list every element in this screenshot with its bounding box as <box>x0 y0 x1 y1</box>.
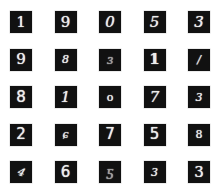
digit-image: 3 <box>188 11 210 33</box>
digit-image: 1 <box>10 11 32 33</box>
digit-image: / <box>188 49 210 71</box>
digit-label: ɜ <box>107 54 113 66</box>
digit-label: 7 <box>150 90 160 105</box>
digit-image: 8 <box>188 124 210 146</box>
digit-image: 5 <box>144 11 166 33</box>
digit-image: ɜ <box>99 49 121 71</box>
digit-image: 3 <box>188 161 210 183</box>
digit-image: o <box>99 86 121 108</box>
digit-image: 6 <box>55 161 77 183</box>
digit-image: 8 <box>55 49 77 71</box>
digit-label: 9 <box>16 52 26 67</box>
digit-label: 5 <box>150 127 160 142</box>
digit-image: 2 <box>10 124 32 146</box>
digit-label: 4 <box>16 166 26 179</box>
digit-label: 8 <box>196 129 203 140</box>
digit-image: 7 <box>144 86 166 108</box>
digit-image: 9 <box>55 11 77 33</box>
digit-image: 1 <box>144 49 166 71</box>
digit-image: 4 <box>10 161 32 183</box>
digit-label: 6 <box>61 165 71 180</box>
digit-image: 1 <box>55 86 77 108</box>
digit-image: 3 <box>144 161 166 183</box>
digit-label: 3 <box>151 167 158 178</box>
digit-label: 0 <box>105 15 115 30</box>
digit-label: 2 <box>16 127 26 142</box>
digit-image: 3 <box>188 86 210 108</box>
digit-label: 3 <box>194 15 204 30</box>
digit-label: 1 <box>16 15 26 30</box>
digit-image: 7 <box>99 124 121 146</box>
digit-label: 8 <box>16 90 26 105</box>
digit-image: 8 <box>10 86 32 108</box>
digit-image: 0 <box>99 11 121 33</box>
digit-label: 1 <box>61 90 71 105</box>
digit-image: 5 <box>144 124 166 146</box>
digit-label: 3 <box>196 92 203 103</box>
digit-image: 9 <box>10 49 32 71</box>
digit-image: ɕ <box>55 124 77 146</box>
digit-image-grid: 1 9 0 5 3 9 8 ɜ 1 / 8 1 o 7 3 2 ɕ 7 5 8 … <box>10 11 210 183</box>
digit-label: o <box>107 92 114 103</box>
digit-label: 5 <box>150 15 160 30</box>
digit-label: / <box>197 54 201 65</box>
digit-label: 7 <box>105 127 115 142</box>
digit-label: ɕ <box>62 129 68 140</box>
digit-label: 9 <box>61 15 71 30</box>
digit-image: ƽ <box>99 161 121 183</box>
digit-label: 1 <box>149 52 159 67</box>
digit-label: 8 <box>62 54 69 65</box>
digit-label: ƽ <box>107 166 114 178</box>
digit-label: 3 <box>194 165 204 180</box>
